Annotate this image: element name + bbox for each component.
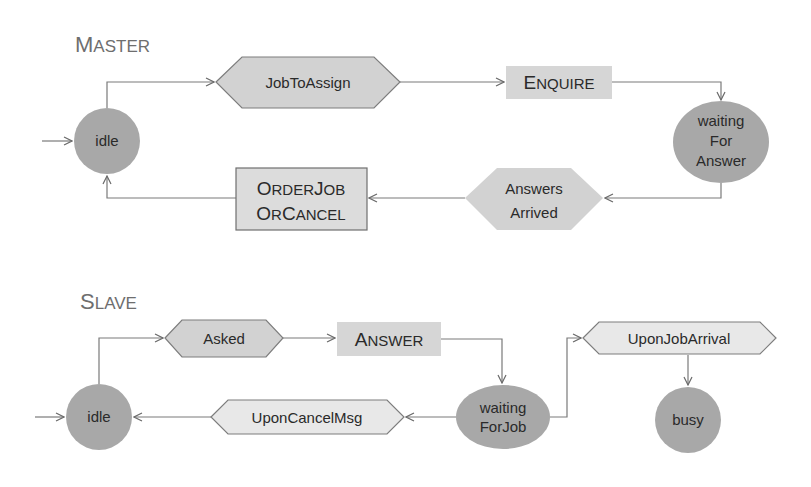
action-label: ENQUIRE [523,72,594,93]
state-label: busy [672,411,704,428]
master-action-orderjob-orcancel[interactable]: ORDERJOB ORCANCEL [236,168,367,230]
svg-text:ORCANCEL: ORCANCEL [256,203,345,224]
slave-action-answer[interactable]: ANSWER [337,322,441,356]
slave-state-waiting-for-job[interactable]: waiting ForJob [456,385,550,449]
master-state-waiting-for-answer[interactable]: waiting For Answer [673,101,769,183]
slave-title: SLAVE [80,289,137,314]
master-state-idle[interactable]: idle [74,108,140,174]
edge-waiting-to-answersarrived [605,183,721,198]
master-event-jobtoassign[interactable]: JobToAssign [216,57,400,108]
state-label: idle [95,132,118,149]
edge-idle-to-asked [99,338,163,384]
master-action-enquire[interactable]: ENQUIRE [506,66,612,99]
svg-text:For: For [710,132,733,149]
edge-orderjob-to-idle [107,176,236,198]
svg-text:ForJob: ForJob [480,418,527,435]
state-label: idle [87,408,110,425]
svg-text:Answer: Answer [696,152,746,169]
action-label: ANSWER [355,329,424,350]
edge-waitingforjob-to-uponjobarrival [550,338,581,417]
event-label: UponJobArrival [628,330,731,347]
event-label: JobToAssign [265,74,350,91]
svg-text:waiting: waiting [697,112,745,129]
state-ellipse [456,385,550,449]
slave-event-upon-cancel-msg[interactable]: UponCancelMsg [211,400,404,434]
svg-text:ORDERJOB: ORDERJOB [257,178,345,199]
slave-state-busy[interactable]: busy [655,387,721,453]
slave-state-idle[interactable]: idle [66,384,132,450]
edge-enquire-to-waiting [612,82,721,100]
master-title: MASTER [75,32,150,57]
svg-text:Answers: Answers [505,180,563,197]
svg-text:waiting: waiting [479,399,527,416]
state-machine-diagram: MASTER idle JobToAssign ENQUIRE waiting … [0,0,811,487]
slave-event-upon-job-arrival[interactable]: UponJobArrival [583,322,776,354]
master-event-answers-arrived[interactable]: Answers Arrived [465,168,603,230]
edge-idle-to-jobtoassign [107,82,214,108]
event-label: Asked [203,330,245,347]
slave-event-asked[interactable]: Asked [165,320,283,357]
edge-answer-to-waitingforjob [441,339,502,383]
event-label: UponCancelMsg [252,409,363,426]
svg-text:Arrived: Arrived [510,204,558,221]
